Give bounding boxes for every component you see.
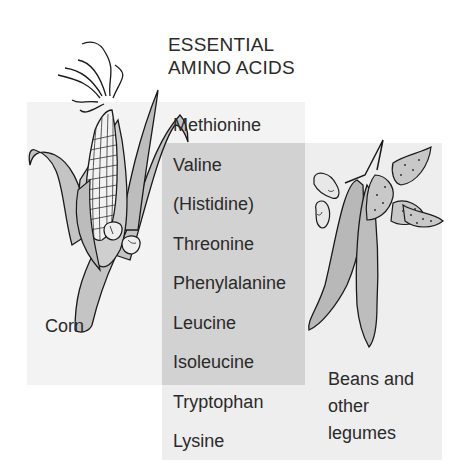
amino-acid-isoleucine: Isoleucine (173, 352, 254, 372)
diagram-title: ESSENTIAL AMINO ACIDS (168, 33, 295, 79)
corn-kernels-illustration (100, 218, 150, 258)
amino-acid-methionine: Methionine (173, 115, 261, 135)
amino-acid-histidine: (Histidine) (173, 194, 254, 214)
bean-pods-illustration (305, 125, 445, 355)
beans-label: Beans and other legumes (328, 366, 414, 447)
beans-label-line-3: legumes (328, 420, 414, 447)
beans-label-line-1: Beans and (328, 366, 414, 393)
amino-acid-tryptophan: Tryptophan (173, 392, 263, 412)
amino-acid-lysine: Lysine (173, 431, 224, 451)
corn-label: Corn (45, 313, 84, 340)
beans-label-line-2: other (328, 393, 414, 420)
amino-acid-valine: Valine (173, 155, 222, 175)
amino-acid-threonine: Threonine (173, 234, 254, 254)
amino-acid-phenylalanine: Phenylalanine (173, 273, 286, 293)
title-line-1: ESSENTIAL (168, 33, 295, 56)
amino-acid-leucine: Leucine (173, 313, 236, 333)
title-line-2: AMINO ACIDS (168, 56, 295, 79)
